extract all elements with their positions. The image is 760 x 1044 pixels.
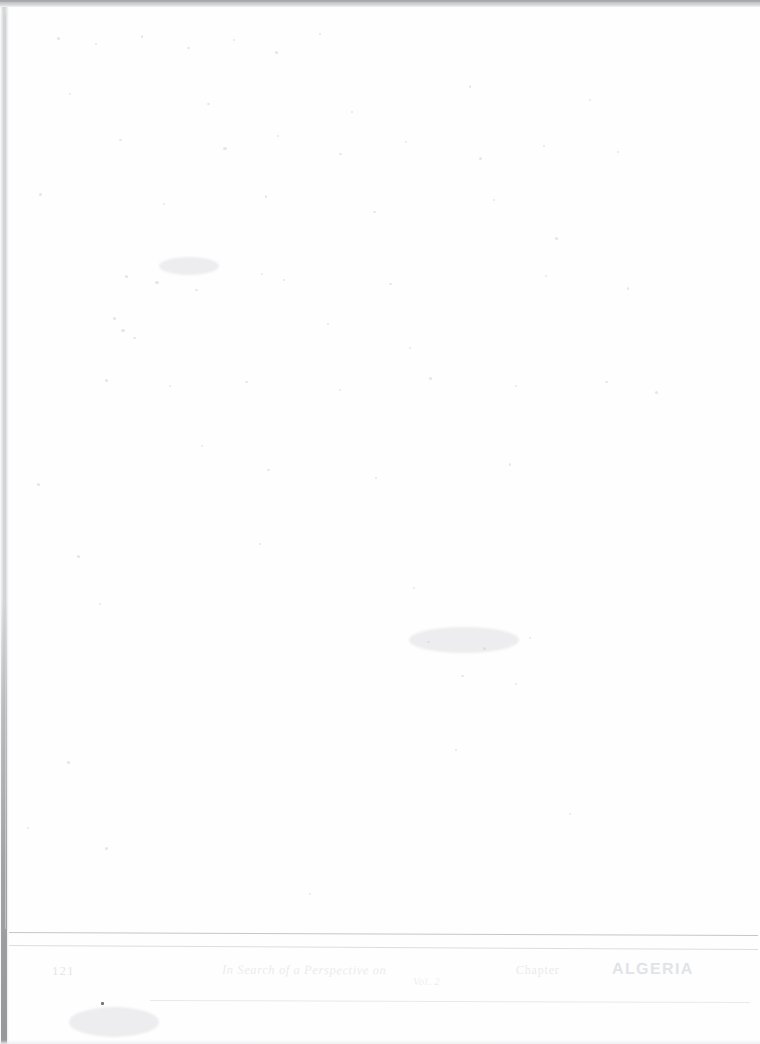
dust-speck xyxy=(259,543,261,545)
footer-heading: ALGERIA xyxy=(612,960,694,978)
dust-speck xyxy=(605,381,608,383)
dust-speck xyxy=(265,195,267,198)
dust-speck xyxy=(339,389,341,391)
dust-speck xyxy=(455,749,457,751)
footer-section-label: Chapter xyxy=(516,963,560,978)
dust-speck xyxy=(373,211,376,213)
dust-speck xyxy=(569,813,571,815)
dust-speck xyxy=(515,683,517,685)
dust-speck xyxy=(277,135,279,137)
dust-speck xyxy=(223,147,227,150)
scan-edge-bottom xyxy=(0,1040,760,1044)
footer-note: Vol. 2 xyxy=(413,976,440,987)
dust-speck xyxy=(351,111,353,113)
dust-speck xyxy=(57,37,60,40)
dust-speck xyxy=(95,43,97,45)
dust-speck xyxy=(233,39,235,41)
dust-speck xyxy=(469,85,471,88)
dust-speck xyxy=(207,103,210,105)
dust-speck xyxy=(283,279,285,281)
dust-speck xyxy=(105,379,108,382)
dust-speck xyxy=(99,603,101,605)
dust-speck xyxy=(493,199,495,201)
dust-speck xyxy=(141,35,143,38)
dust-speck xyxy=(479,157,482,160)
dust-speck xyxy=(275,51,278,54)
dust-speck xyxy=(77,555,80,558)
dust-speck xyxy=(389,283,392,285)
dust-speck xyxy=(67,761,70,764)
dust-speck xyxy=(375,477,377,479)
dust-speck xyxy=(69,93,71,95)
dust-speck xyxy=(125,275,128,278)
dust-speck xyxy=(155,281,159,284)
dust-speck xyxy=(39,193,42,196)
dust-speck xyxy=(261,273,263,275)
dust-speck xyxy=(187,47,190,49)
page-content-area xyxy=(9,7,760,1044)
dust-speck xyxy=(509,463,511,466)
dust-speck xyxy=(529,637,531,639)
dust-speck xyxy=(27,827,29,829)
dust-speck xyxy=(589,99,591,101)
dust-speck xyxy=(627,287,629,290)
dust-speck xyxy=(405,141,407,143)
scan-edge-left-shadow xyxy=(1,600,7,1044)
footer-title: In Search of a Perspective on xyxy=(222,963,387,979)
dust-speck xyxy=(461,675,464,677)
dust-speck xyxy=(327,323,329,325)
scan-smudge xyxy=(409,627,519,653)
dust-speck xyxy=(105,847,108,850)
dust-speck xyxy=(413,587,415,589)
ink-speck xyxy=(101,1002,104,1005)
dust-speck xyxy=(555,237,558,240)
dust-speck xyxy=(267,469,270,471)
dust-speck xyxy=(113,317,116,320)
scan-hairline xyxy=(5,14,6,929)
dust-speck xyxy=(429,377,432,380)
dust-speck xyxy=(163,203,165,205)
dust-speck xyxy=(121,329,125,332)
scan-edge-top xyxy=(0,0,760,7)
dust-speck xyxy=(201,445,203,447)
dust-speck xyxy=(655,391,658,394)
dust-speck xyxy=(37,483,40,486)
dust-speck xyxy=(617,151,619,153)
dust-speck xyxy=(309,893,311,895)
dust-speck xyxy=(545,275,547,277)
dust-speck xyxy=(409,347,411,349)
dust-speck xyxy=(339,153,342,155)
dust-speck xyxy=(195,289,198,291)
dust-speck xyxy=(543,145,545,147)
dust-speck xyxy=(515,385,517,387)
scan-smudge xyxy=(69,1007,159,1037)
dust-speck xyxy=(319,33,321,35)
dust-speck xyxy=(245,381,248,383)
dust-speck xyxy=(133,337,136,339)
page-number: 121 xyxy=(52,963,75,979)
page-footer: 121 In Search of a Perspective on Vol. 2… xyxy=(0,958,760,988)
scanned-page: 121 In Search of a Perspective on Vol. 2… xyxy=(0,0,760,1044)
dust-speck xyxy=(169,385,171,387)
scan-smudge xyxy=(159,257,219,275)
dust-speck xyxy=(119,139,122,141)
